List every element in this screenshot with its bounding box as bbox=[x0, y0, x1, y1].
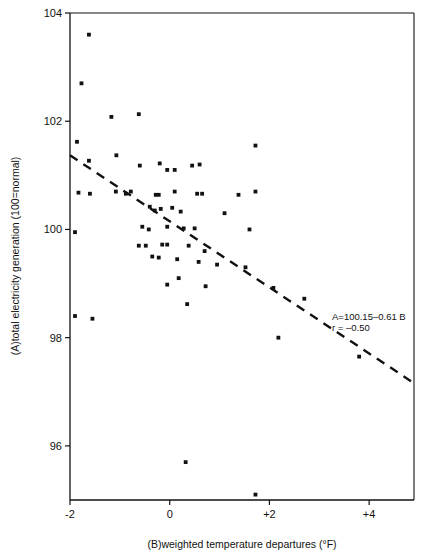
scatter-point bbox=[187, 244, 191, 248]
scatter-point bbox=[138, 164, 142, 168]
scatter-point bbox=[153, 209, 157, 213]
x-tick-label: 0 bbox=[167, 508, 173, 520]
scatter-point bbox=[182, 226, 186, 230]
scatter-point bbox=[197, 260, 201, 264]
scatter-point bbox=[73, 230, 77, 234]
scatter-point bbox=[137, 112, 141, 116]
scatter-point bbox=[203, 249, 207, 253]
scatter-point bbox=[165, 168, 169, 172]
y-tick-label: 98 bbox=[50, 332, 62, 344]
scatter-point bbox=[204, 284, 208, 288]
scatter-point bbox=[114, 190, 118, 194]
scatter-point bbox=[237, 193, 241, 197]
scatter-point bbox=[177, 276, 181, 280]
scatter-point bbox=[200, 192, 204, 196]
scatter-point bbox=[198, 163, 202, 167]
chart-background bbox=[0, 0, 426, 558]
scatter-point bbox=[173, 168, 177, 172]
y-tick-label: 102 bbox=[44, 115, 62, 127]
scatter-point bbox=[159, 207, 163, 211]
scatter-point bbox=[190, 164, 194, 168]
regression-equation-text: A=100.15–0.61 B bbox=[332, 311, 406, 322]
scatter-point bbox=[157, 256, 161, 260]
scatter-point bbox=[158, 162, 162, 166]
scatter-point bbox=[150, 255, 154, 259]
y-tick-label: 104 bbox=[44, 7, 62, 19]
scatter-point bbox=[272, 286, 276, 290]
scatter-point bbox=[87, 159, 91, 163]
chart-figure: 9698100102104 -20+2+4 (A)total electrici… bbox=[0, 0, 426, 558]
y-tick-label: 100 bbox=[44, 223, 62, 235]
y-axis-title: (A)total electricity generation (100=nor… bbox=[9, 157, 21, 356]
scatter-point bbox=[109, 115, 113, 119]
scatter-point bbox=[195, 192, 199, 196]
scatter-point bbox=[173, 190, 177, 194]
scatter-point bbox=[147, 228, 151, 232]
scatter-point bbox=[75, 140, 79, 144]
scatter-point bbox=[276, 336, 280, 340]
scatter-point bbox=[140, 225, 144, 229]
scatter-point bbox=[170, 206, 174, 210]
x-tick-label: +2 bbox=[263, 508, 276, 520]
scatter-point bbox=[129, 190, 133, 194]
scatter-point bbox=[254, 190, 258, 194]
scatter-point bbox=[254, 144, 258, 148]
scatter-point bbox=[144, 244, 148, 248]
scatter-point bbox=[148, 205, 152, 209]
scatter-point bbox=[88, 192, 92, 196]
scatter-point bbox=[77, 191, 81, 195]
scatter-point bbox=[179, 210, 183, 214]
scatter-point bbox=[357, 355, 361, 359]
scatter-point bbox=[160, 243, 164, 247]
scatter-point bbox=[124, 192, 128, 196]
scatter-point bbox=[137, 244, 141, 248]
scatter-point bbox=[165, 283, 169, 287]
correlation-coefficient-text: r = –0.50 bbox=[332, 322, 370, 333]
scatter-point bbox=[244, 265, 248, 269]
scatter-point bbox=[223, 211, 227, 215]
scatter-point bbox=[184, 460, 188, 464]
scatter-point bbox=[87, 33, 91, 37]
scatter-point bbox=[175, 257, 179, 261]
scatter-point bbox=[73, 314, 77, 318]
scatter-point bbox=[114, 153, 118, 157]
x-tick-label: +4 bbox=[363, 508, 376, 520]
x-axis-title: (B)weighted temperature departures (°F) bbox=[147, 538, 336, 550]
scatter-point bbox=[91, 317, 95, 321]
scatter-point bbox=[248, 228, 252, 232]
scatter-point bbox=[80, 81, 84, 85]
scatter-point bbox=[157, 193, 161, 197]
scatter-point bbox=[165, 225, 169, 229]
scatter-point bbox=[254, 493, 258, 497]
scatter-plot: 9698100102104 -20+2+4 (A)total electrici… bbox=[0, 0, 426, 558]
scatter-point bbox=[215, 263, 219, 267]
scatter-point bbox=[193, 226, 197, 230]
y-tick-label: 96 bbox=[50, 440, 62, 452]
x-tick-label: -2 bbox=[65, 508, 75, 520]
scatter-point bbox=[302, 297, 306, 301]
scatter-point bbox=[165, 243, 169, 247]
scatter-point bbox=[185, 302, 189, 306]
